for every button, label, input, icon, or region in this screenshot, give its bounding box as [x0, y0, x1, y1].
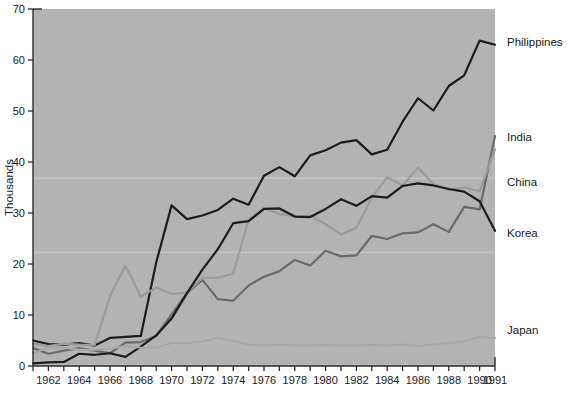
x-tick-label: 1982: [344, 374, 368, 386]
y-tick-label: 20: [13, 258, 25, 270]
x-tick-label: 1991: [483, 374, 507, 386]
series-label-china: China: [507, 176, 538, 188]
x-tick-label: 1980: [313, 374, 337, 386]
y-tick-label: 70: [13, 3, 25, 15]
y-tick-label: 0: [19, 360, 25, 372]
plot-area-background: [33, 9, 495, 366]
x-tick-label: 1988: [437, 374, 461, 386]
y-axis-title: Thousands: [3, 159, 15, 216]
series-label-japan: Japan: [507, 324, 538, 336]
series-label-korea: Korea: [507, 227, 538, 239]
series-label-india: India: [507, 131, 533, 143]
x-tick-label: 1966: [98, 374, 122, 386]
x-tick-label: 1984: [375, 374, 399, 386]
x-tick-label: 1970: [159, 374, 183, 386]
x-tick-label: 1968: [129, 374, 153, 386]
plot-area: [33, 9, 495, 366]
x-tick-label: 1964: [67, 374, 91, 386]
y-tick-label: 10: [13, 309, 25, 321]
chart-canvas: 010203040506070 196219641966196819701972…: [0, 0, 568, 402]
series-label-philippines: Philippines: [507, 36, 563, 48]
x-tick-label: 1986: [406, 374, 430, 386]
x-tick-label: 1962: [36, 374, 60, 386]
y-tick-label: 60: [13, 54, 25, 66]
y-axis-title-text: Thousands: [3, 159, 15, 216]
y-tick-label: 50: [13, 105, 25, 117]
line-chart: 010203040506070 196219641966196819701972…: [0, 0, 568, 402]
x-tick-label: 1972: [190, 374, 214, 386]
x-tick-label: 1976: [252, 374, 276, 386]
x-tick-label: 1974: [221, 374, 245, 386]
x-tick-label: 1978: [283, 374, 307, 386]
